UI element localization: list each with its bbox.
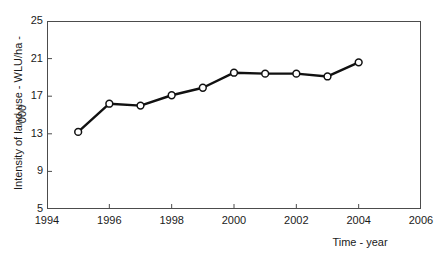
x-axis-tick-label: 2004 [334,214,384,226]
x-axis-tick-label: 2000 [209,214,259,226]
y-axis-title-unit: 000 [16,99,28,129]
x-axis-tick-label: 2002 [271,214,321,226]
line-chart-figure: 5913172125 1994199619982000200220042006 … [0,0,440,257]
data-point-marker [106,100,113,107]
plot-series-layer [47,21,421,209]
data-point-marker [262,70,269,77]
data-point-marker [324,73,331,80]
data-point-marker [137,102,144,109]
data-point-marker [199,84,206,91]
data-point-marker [168,92,175,99]
data-point-marker [231,69,238,76]
x-axis-title: Time - year [300,236,420,248]
data-point-marker [75,129,82,136]
data-point-marker [355,59,362,66]
x-axis-tick-label: 1998 [147,214,197,226]
x-axis-tick-label: 2006 [396,214,440,226]
x-axis-tick-label: 1996 [84,214,134,226]
data-point-marker [293,70,300,77]
x-axis-tick-labels: 1994199619982000200220042006 [0,214,440,230]
series-line [78,62,359,132]
chart-title [0,0,440,5]
x-axis-tick-label: 1994 [22,214,72,226]
